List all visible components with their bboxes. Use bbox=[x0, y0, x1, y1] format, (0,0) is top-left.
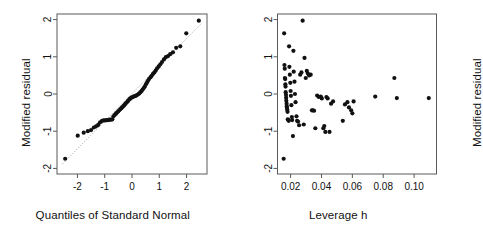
data-point bbox=[308, 73, 312, 77]
data-point bbox=[303, 76, 307, 80]
panel-qq-plot: -2-1012-2-1012 Modified residual Quantil… bbox=[0, 0, 226, 229]
data-point bbox=[288, 94, 292, 98]
x-tick-label: -2 bbox=[73, 181, 82, 192]
data-point bbox=[322, 124, 326, 128]
data-point bbox=[297, 123, 301, 127]
data-point bbox=[289, 103, 293, 107]
data-point bbox=[282, 31, 286, 35]
data-point bbox=[345, 100, 349, 104]
data-point bbox=[283, 77, 287, 81]
y-tick-label: 0 bbox=[43, 91, 54, 97]
x-tick-label: -1 bbox=[100, 181, 109, 192]
y-tick-label: -2 bbox=[263, 164, 274, 173]
data-point bbox=[351, 99, 355, 103]
data-point bbox=[281, 157, 285, 161]
data-point bbox=[285, 110, 289, 114]
data-point bbox=[287, 73, 291, 77]
x-tick-label: 2 bbox=[184, 181, 190, 192]
x-tick-label: 0.10 bbox=[404, 181, 424, 192]
data-point bbox=[282, 67, 286, 71]
data-point bbox=[299, 70, 303, 74]
data-point bbox=[286, 44, 290, 48]
data-point bbox=[288, 89, 292, 93]
data-point bbox=[330, 99, 334, 103]
y-tick-label: 1 bbox=[263, 54, 274, 60]
plot-frame bbox=[277, 14, 436, 174]
data-point bbox=[293, 100, 297, 104]
data-point bbox=[325, 96, 329, 100]
y-tick-label: -1 bbox=[43, 126, 54, 135]
data-point bbox=[63, 157, 67, 161]
x-tick-label: 0.02 bbox=[280, 181, 300, 192]
data-point bbox=[295, 119, 299, 123]
data-point bbox=[288, 81, 292, 85]
data-point bbox=[184, 31, 188, 35]
data-point bbox=[327, 130, 331, 134]
x-tick-label: 0.04 bbox=[311, 181, 331, 192]
x-tick-label: 0.08 bbox=[373, 181, 393, 192]
data-point bbox=[287, 65, 291, 69]
panel-leverage-plot: 0.020.040.060.080.10-2-1012 Modified res… bbox=[226, 0, 452, 229]
data-point bbox=[290, 118, 294, 122]
data-point bbox=[197, 19, 201, 23]
data-point bbox=[178, 44, 182, 48]
data-point bbox=[294, 114, 298, 118]
data-point bbox=[350, 111, 354, 115]
data-point bbox=[301, 122, 305, 126]
leverage-plot-canvas: 0.020.040.060.080.10-2-1012 bbox=[226, 0, 452, 229]
leverage-plot-y-axis-label: Modified residual bbox=[471, 58, 483, 147]
data-point bbox=[291, 70, 295, 74]
y-tick-label: 2 bbox=[263, 16, 274, 22]
x-tick-label: 0.06 bbox=[342, 181, 362, 192]
data-point bbox=[340, 119, 344, 123]
data-point bbox=[76, 134, 80, 138]
y-tick-label: 2 bbox=[43, 16, 54, 22]
data-point bbox=[282, 63, 286, 67]
data-point bbox=[292, 92, 296, 96]
data-point bbox=[292, 80, 296, 84]
y-tick-label: 1 bbox=[43, 54, 54, 60]
y-tick-label: -1 bbox=[263, 126, 274, 135]
data-point bbox=[302, 56, 306, 60]
data-point bbox=[313, 126, 317, 130]
x-tick-label: 1 bbox=[156, 181, 162, 192]
data-point bbox=[171, 50, 175, 54]
data-point bbox=[373, 95, 377, 99]
data-point bbox=[319, 96, 323, 100]
data-point bbox=[174, 46, 178, 50]
data-point bbox=[394, 96, 398, 100]
qq-plot-x-axis-label: Quantiles of Standard Normal bbox=[0, 209, 226, 221]
data-point bbox=[290, 134, 294, 138]
data-point bbox=[291, 49, 295, 53]
data-point bbox=[426, 96, 430, 100]
data-point bbox=[392, 76, 396, 80]
y-tick-label: 0 bbox=[263, 91, 274, 97]
data-point bbox=[323, 130, 327, 134]
data-point bbox=[283, 84, 287, 88]
qq-plot-y-axis-label: Modified residual bbox=[20, 58, 32, 147]
data-point bbox=[311, 109, 315, 113]
leverage-plot-x-axis-label: Leverage h bbox=[226, 209, 452, 221]
x-tick-label: 0 bbox=[129, 181, 135, 192]
qq-plot-canvas: -2-1012-2-1012 bbox=[0, 0, 226, 229]
y-tick-label: -2 bbox=[43, 164, 54, 173]
data-point bbox=[300, 19, 304, 23]
data-point bbox=[82, 131, 86, 135]
